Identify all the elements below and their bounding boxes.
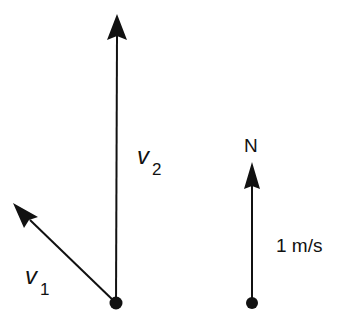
label-v1-subscript: 1 bbox=[40, 280, 49, 299]
vector-diagram: v 1 v 2 N 1 m/s bbox=[0, 0, 355, 326]
arrowhead-north-icon bbox=[244, 162, 260, 189]
vector-v2 bbox=[107, 14, 127, 303]
label-v2: v bbox=[137, 142, 151, 169]
scale-vector bbox=[244, 162, 260, 303]
label-v2-subscript: 2 bbox=[152, 160, 161, 179]
north-label: N bbox=[244, 135, 258, 156]
label-v1: v bbox=[25, 262, 39, 289]
origin-dot bbox=[110, 297, 123, 310]
diagram-svg: v 1 v 2 N 1 m/s bbox=[0, 0, 355, 326]
scale-label: 1 m/s bbox=[276, 235, 322, 256]
scale-origin-dot bbox=[246, 297, 258, 309]
